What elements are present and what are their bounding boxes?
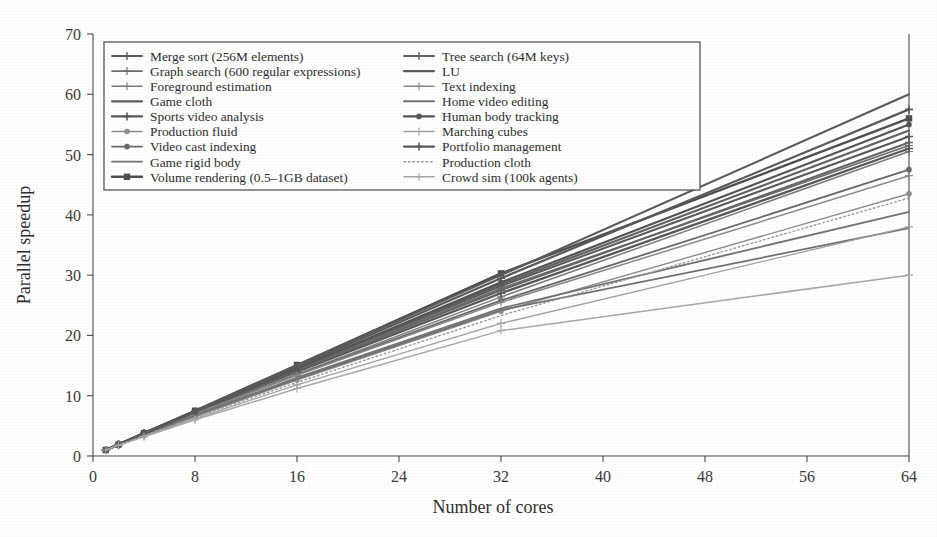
- series-line: [106, 228, 909, 450]
- y-axis-ticks: 010203040506070: [65, 26, 93, 465]
- legend-item-label: Human body tracking: [442, 109, 559, 124]
- y-tick-label-40: 40: [65, 207, 81, 224]
- y-tick-label-60: 60: [65, 86, 81, 103]
- y-tick-label-50: 50: [65, 147, 81, 164]
- series-14: [102, 223, 913, 454]
- legend-item-label: Production fluid: [150, 124, 238, 139]
- x-tick-label-32: 32: [493, 468, 509, 485]
- legend-item-label: Home video editing: [442, 94, 549, 109]
- legend-item-label: Video cast indexing: [150, 139, 257, 154]
- y-tick-label-10: 10: [65, 388, 81, 405]
- y-tick-label-20: 20: [65, 327, 81, 344]
- x-tick-label-48: 48: [697, 468, 713, 485]
- x-tick-label-64: 64: [901, 468, 917, 485]
- marker-dot: [416, 114, 422, 120]
- legend-item-label: Text indexing: [442, 79, 516, 94]
- y-tick-label-0: 0: [73, 448, 81, 465]
- marker-plus: [905, 105, 913, 113]
- legend-item-label: Production cloth: [442, 155, 531, 170]
- x-tick-label-16: 16: [289, 468, 305, 485]
- legend-item-label: Marching cubes: [442, 124, 528, 139]
- legend-item-label: Game cloth: [150, 94, 212, 109]
- y-tick-label-30: 30: [65, 267, 81, 284]
- marker-dot: [906, 122, 912, 128]
- marker-square: [906, 115, 912, 121]
- marker-plus: [497, 319, 505, 327]
- y-tick-label-70: 70: [65, 26, 81, 43]
- legend-item-label: Volume rendering (0.5–1GB dataset): [150, 170, 348, 185]
- x-tick-label-56: 56: [799, 468, 815, 485]
- legend-item-label: Merge sort (256M elements): [150, 49, 303, 64]
- x-tick-label-8: 8: [191, 468, 199, 485]
- legend-item-label: Crowd sim (100k agents): [442, 170, 578, 185]
- legend-item-label: Portfolio management: [442, 139, 562, 154]
- marker-square: [124, 174, 130, 180]
- x-tick-label-40: 40: [595, 468, 611, 485]
- series-line: [106, 212, 909, 450]
- legend-item-label: Tree search (64M keys): [442, 49, 569, 64]
- legend-item-label: Game rigid body: [150, 155, 241, 170]
- marker-plus: [905, 223, 913, 231]
- x-tick-label-24: 24: [391, 468, 407, 485]
- series-line: [106, 198, 909, 450]
- legend-item-label: Graph search (600 regular expressions): [150, 64, 360, 79]
- marker-plus: [905, 172, 913, 180]
- marker-dot: [906, 191, 912, 197]
- marker-plus: [905, 271, 913, 279]
- series-12: [106, 212, 909, 450]
- chart-figure: 0816243240485664 010203040506070 Merge s…: [0, 0, 937, 537]
- series-line: [106, 275, 909, 450]
- x-tick-label-0: 0: [89, 468, 97, 485]
- y-axis-title: Parallel speedup: [14, 186, 34, 304]
- x-axis-ticks: 0816243240485664: [89, 456, 917, 485]
- series-line: [106, 227, 909, 450]
- legend-item-label: LU: [442, 64, 460, 79]
- legend-item-label: Sports video analysis: [150, 109, 264, 124]
- x-axis-title: Number of cores: [433, 497, 554, 517]
- chart-legend: Merge sort (256M elements)Graph search (…: [104, 42, 700, 190]
- series-7: [106, 228, 909, 450]
- marker-dot: [124, 129, 130, 135]
- legend-item-label: Foreground estimation: [150, 79, 272, 94]
- parallel-speedup-line-chart: 0816243240485664 010203040506070 Merge s…: [0, 0, 937, 537]
- marker-plus: [497, 327, 505, 335]
- marker-dot: [906, 167, 912, 173]
- series-16: [106, 198, 909, 450]
- marker-dot: [124, 144, 130, 150]
- legend-item-0-1[interactable]: Graph search (600 regular expressions): [112, 64, 360, 79]
